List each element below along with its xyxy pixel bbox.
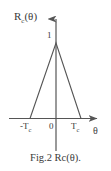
figure-caption: Fig.2 Rc(θ). <box>0 152 111 163</box>
x-tick-label-positive-tc: Tc <box>71 122 79 133</box>
peak-value-label: 1 <box>47 31 52 40</box>
x-tick-label-negative-tc: -Tc <box>20 122 31 133</box>
y-axis-label-argument: (θ) <box>24 10 37 22</box>
tick-neg-main: -T <box>20 121 29 131</box>
x-axis-label: θ <box>93 126 98 136</box>
x-tick-label-zero: 0 <box>49 122 54 131</box>
plot-area <box>0 0 111 171</box>
tick-pos-subscript: c <box>77 126 80 133</box>
figure-container: Rc(θ) 1 -Tc 0 Tc θ Fig.2 Rc(θ). <box>0 0 111 171</box>
tick-neg-subscript: c <box>29 126 32 133</box>
y-axis-label: Rc(θ) <box>14 11 37 25</box>
